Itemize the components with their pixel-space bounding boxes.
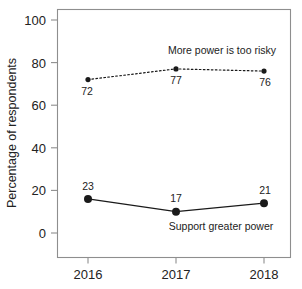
data-point-support-2016 [84,195,92,203]
series-support-greater-power: 23 17 21 Support greater power [82,180,274,232]
chart-container: 100 80 60 40 20 0 Percentage of responde… [0,0,302,289]
data-point-risky-2017 [173,66,178,71]
data-point-risky-2018 [261,69,266,74]
x-axis-tick-labels: 2016 2017 2018 [74,267,279,282]
x-axis-ticks [88,258,264,264]
series-annotation-risky: More power is too risky [168,44,277,56]
y-tick-label: 40 [32,141,46,156]
y-axis-title: Percentage of respondents [5,58,19,208]
data-label-support-2018: 21 [259,184,271,196]
y-tick-label: 100 [24,13,46,28]
y-tick-label: 80 [32,56,46,71]
y-tick-label: 60 [32,98,46,113]
y-tick-label: 0 [39,226,46,241]
x-tick-label-2018: 2018 [250,267,279,282]
data-point-support-2017 [172,208,180,216]
x-tick-label-2016: 2016 [74,267,103,282]
data-label-risky-2017: 77 [170,74,182,86]
y-tick-label: 20 [32,183,46,198]
data-label-risky-2016: 72 [81,85,93,97]
data-label-risky-2018: 76 [259,76,271,88]
y-axis-ticks [51,20,58,233]
data-label-support-2017: 17 [170,192,182,204]
y-axis-tick-labels: 100 80 60 40 20 0 [24,13,46,241]
data-point-risky-2016 [85,77,90,82]
series-annotation-support: Support greater power [169,220,274,232]
data-label-support-2016: 23 [82,180,94,192]
series-more-power-is-too-risky: 72 77 76 More power is too risky [81,44,277,97]
x-tick-label-2017: 2017 [162,267,191,282]
line-chart: 100 80 60 40 20 0 Percentage of responde… [0,0,302,289]
data-point-support-2018 [260,199,268,207]
